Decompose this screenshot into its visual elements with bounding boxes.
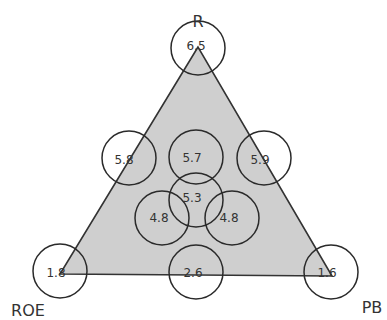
circle-value: 5.7: [182, 151, 201, 165]
circle-value: 5.9: [250, 153, 269, 167]
vertex-label-pb: PB: [362, 298, 383, 317]
circle-value: 1.6: [317, 266, 336, 280]
triangle-diagram: 6.55.85.75.95.34.84.81.82.61.6 RROEPB: [0, 0, 387, 320]
circle-value: 5.8: [114, 153, 133, 167]
vertex-label-r: R: [192, 12, 203, 31]
circle-value: 4.8: [149, 211, 168, 225]
circle-value: 4.8: [219, 211, 238, 225]
circle-value: 6.5: [186, 39, 205, 53]
circle-value: 2.6: [183, 266, 202, 280]
vertex-label-roe: ROE: [11, 301, 45, 320]
circle-value: 1.8: [46, 266, 65, 280]
circle-value: 5.3: [182, 191, 201, 205]
